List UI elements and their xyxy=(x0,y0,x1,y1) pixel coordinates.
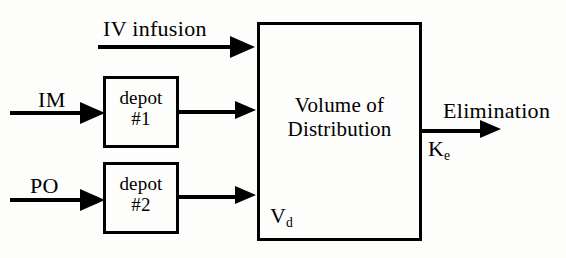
im-route-label: IM xyxy=(38,87,66,113)
arrow-head xyxy=(480,120,501,138)
depot-2-label: depot #2 xyxy=(103,174,179,215)
depot-2-line1: depot xyxy=(119,173,162,194)
vd-symbol-base: V xyxy=(270,203,286,228)
depot-1-line2: #1 xyxy=(103,109,179,130)
central-compartment-line2: Distribution xyxy=(257,117,422,141)
arrow-head xyxy=(235,101,256,119)
depot-1-line1: depot xyxy=(119,87,162,108)
ke-symbol-subscript: e xyxy=(444,148,450,163)
vd-symbol-subscript: d xyxy=(286,215,293,230)
iv-infusion-label: IV infusion xyxy=(103,16,207,42)
arrow-shaft xyxy=(422,129,482,133)
arrow-head xyxy=(80,102,105,124)
pharmacokinetic-compartment-diagram: IV infusion IM PO depot #1 depot #2 Volu… xyxy=(0,0,566,258)
arrow-head xyxy=(80,189,105,211)
depot-1-label: depot #1 xyxy=(103,88,179,129)
arrow-shaft xyxy=(179,195,237,199)
depot-2-line2: #2 xyxy=(103,195,179,216)
arrow-shaft xyxy=(10,111,82,115)
central-compartment-line1: Volume of xyxy=(295,93,385,117)
central-compartment-label: Volume of Distribution xyxy=(257,93,422,142)
ke-symbol-base: K xyxy=(428,136,444,161)
volume-of-distribution-symbol: Vd xyxy=(270,203,293,229)
arrow-head xyxy=(235,186,256,204)
elimination-rate-constant-symbol: Ke xyxy=(428,136,450,162)
arrow-shaft xyxy=(98,45,234,49)
arrow-shaft xyxy=(179,110,237,114)
arrow-head xyxy=(230,36,255,58)
po-route-label: PO xyxy=(30,173,59,199)
arrow-shaft xyxy=(10,198,82,202)
